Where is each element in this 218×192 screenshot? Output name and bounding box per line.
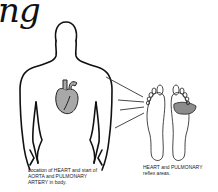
left-foot-sole-icon xyxy=(146,85,164,161)
right-foot-sole-icon xyxy=(171,85,196,161)
feet-caption: HEART and PULMONARY reflex areas. xyxy=(143,164,213,176)
heart-reflex-area xyxy=(174,102,196,114)
body-caption: Location of HEART and start of AORTA and… xyxy=(28,167,108,185)
heart-icon xyxy=(56,80,78,114)
